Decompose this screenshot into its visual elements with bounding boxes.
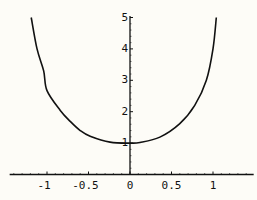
y-tick-label: 3 — [108, 74, 128, 85]
y-tick-label: 5 — [108, 12, 128, 23]
x-tick-label: 0 — [127, 180, 134, 191]
x-tick-label: -1 — [37, 180, 50, 191]
y-tick-label: 2 — [108, 106, 128, 117]
x-tick-label: 0.5 — [162, 180, 182, 191]
y-tick-label: 4 — [108, 43, 128, 54]
plot-area — [0, 0, 257, 200]
axes — [10, 16, 254, 175]
x-tick-label: 1 — [210, 180, 217, 191]
x-tick-label: -0.5 — [72, 180, 99, 191]
y-tick-label: 1 — [108, 137, 128, 148]
